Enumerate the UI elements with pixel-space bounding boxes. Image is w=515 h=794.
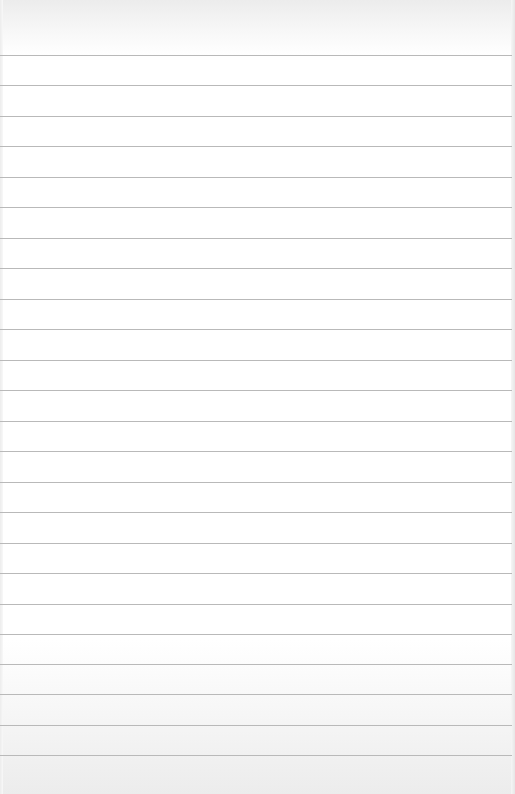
ruled-line (0, 329, 512, 330)
ruled-line (0, 268, 512, 269)
ruled-line (0, 146, 512, 147)
ruled-line (0, 360, 512, 361)
ruled-line (0, 664, 512, 665)
ruled-line (0, 725, 512, 726)
ruled-line (0, 207, 512, 208)
ruled-line (0, 238, 512, 239)
ruled-line (0, 573, 512, 574)
ruled-line (0, 421, 512, 422)
ruled-line (0, 512, 512, 513)
ruled-line (0, 177, 512, 178)
lined-paper-sheet (0, 0, 515, 794)
ruled-line (0, 634, 512, 635)
paper-left-edge (0, 0, 3, 794)
ruled-line (0, 299, 512, 300)
ruled-line (0, 694, 512, 695)
ruled-line (0, 55, 512, 56)
paper-right-edge (511, 0, 515, 794)
ruled-line (0, 116, 512, 117)
ruled-line (0, 85, 512, 86)
ruled-line (0, 755, 512, 756)
ruled-line (0, 482, 512, 483)
ruled-line (0, 390, 512, 391)
ruled-line (0, 543, 512, 544)
ruled-line (0, 451, 512, 452)
ruled-line (0, 604, 512, 605)
